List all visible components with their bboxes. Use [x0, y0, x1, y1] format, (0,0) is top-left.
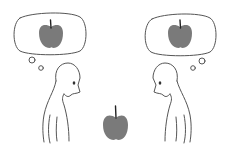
center-apple-icon — [103, 106, 128, 140]
thought-apple-icon — [39, 20, 63, 48]
left-figure — [43, 63, 80, 143]
right-figure — [153, 63, 191, 143]
left-thought-bubble — [14, 13, 86, 70]
thought-apple-icon — [168, 20, 192, 48]
right-thought-bubble — [145, 14, 216, 70]
illustration — [0, 0, 227, 156]
